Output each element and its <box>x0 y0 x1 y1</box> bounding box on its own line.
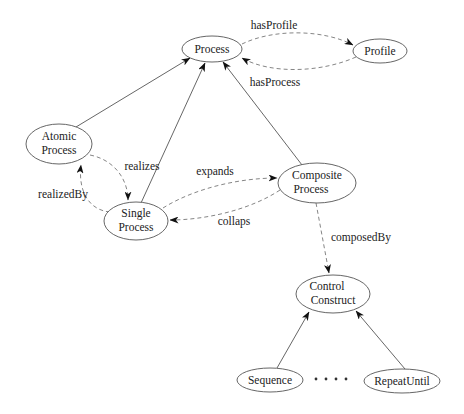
label-realizes: realizes <box>124 160 160 172</box>
edge-composed-by <box>316 203 329 273</box>
edge-repeatuntil-to-cc <box>356 311 405 369</box>
edge-single-to-process <box>141 63 205 203</box>
node-process-label: Process <box>194 43 230 55</box>
node-atomic-process-line1: Atomic <box>42 130 77 142</box>
node-composite-process: Composite Process <box>278 163 356 203</box>
label-collaps: collaps <box>218 215 251 228</box>
edge-has-process <box>242 57 356 70</box>
label-composed-by: composedBy <box>331 231 391 244</box>
node-composite-process-line2: Process <box>293 183 329 195</box>
edge-has-profile <box>242 33 353 45</box>
ellipsis-dots <box>315 378 348 381</box>
edge-expands <box>163 178 277 208</box>
node-composite-process-line1: Composite <box>292 169 342 182</box>
label-realized-by: realizedBy <box>38 188 88 201</box>
node-single-process-line1: Single <box>121 207 150 220</box>
node-profile-label: Profile <box>364 45 395 57</box>
node-control-construct-line1: Control <box>309 280 344 292</box>
label-has-process: hasProcess <box>250 76 301 88</box>
node-process: Process <box>182 36 242 62</box>
node-atomic-process: Atomic Process <box>26 124 92 164</box>
node-single-process: Single Process <box>104 202 168 240</box>
node-repeat-until: RepeatUntil <box>364 369 440 393</box>
node-repeat-until-label: RepeatUntil <box>374 375 430 388</box>
node-control-construct: Control Construct <box>296 275 370 313</box>
node-sequence-label: Sequence <box>248 374 292 387</box>
node-control-construct-line2: Construct <box>311 294 357 306</box>
node-atomic-process-line2: Process <box>41 144 77 156</box>
label-expands: expands <box>196 165 234 178</box>
node-profile: Profile <box>353 39 407 63</box>
process-ontology-diagram: hasProfile hasProcess realizes realizedB… <box>0 0 464 414</box>
node-single-process-line2: Process <box>118 221 154 233</box>
label-has-profile: hasProfile <box>251 19 298 31</box>
edge-realizes <box>90 155 128 200</box>
node-sequence: Sequence <box>237 368 303 392</box>
edge-atomic-to-process <box>76 58 190 127</box>
edge-sequence-to-cc <box>277 312 309 368</box>
